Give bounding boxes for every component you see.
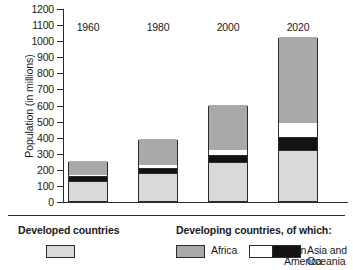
x-axis-line [63, 202, 348, 203]
x-label-2000: 2000 [198, 21, 258, 33]
x-label-1980: 1980 [128, 21, 188, 33]
y-tick-400 [57, 138, 63, 139]
y-tick-label-200: 200 [14, 165, 54, 175]
bar-segment-1980-africa [139, 139, 177, 165]
bar-segment-1980-developed-countries [139, 174, 177, 201]
bar-segment-2020-asia-and-oceania [279, 136, 317, 151]
y-tick-600 [57, 106, 63, 107]
y-tick-0 [57, 202, 63, 203]
y-tick-label-800: 800 [14, 68, 54, 78]
y-tick-label-500: 500 [14, 117, 54, 127]
bar-segment-2000-developed-countries [209, 163, 247, 201]
chart-legend: Developed countries Developing countries… [0, 215, 353, 270]
y-tick-label-1000: 1000 [14, 36, 54, 46]
x-label-1960: 1960 [58, 21, 118, 33]
bar-2020[interactable] [278, 38, 318, 202]
y-axis-line [63, 9, 64, 203]
legend-heading-developing: Developing countries, of which: [176, 224, 332, 236]
bar-1980[interactable] [138, 140, 178, 202]
y-tick-100 [57, 186, 63, 187]
y-tick-label-400: 400 [14, 133, 54, 143]
bar-segment-2020-africa [279, 37, 317, 123]
bar-segment-2000-africa [209, 105, 247, 150]
y-tick-label-1200: 1200 [14, 4, 54, 14]
legend-swatch-developed[interactable] [46, 245, 75, 258]
bar-segment-1960-africa [69, 161, 107, 175]
population-stacked-bar-chart: Population (in millions) 010020030040050… [0, 0, 353, 270]
bar-1960[interactable] [68, 162, 108, 202]
bar-segment-1960-developed-countries [69, 182, 107, 201]
y-tick-label-300: 300 [14, 149, 54, 159]
y-tick-label-0: 0 [14, 197, 54, 207]
y-tick-label-1100: 1100 [14, 20, 54, 30]
y-tick-300 [57, 154, 63, 155]
y-tick-label-700: 700 [14, 84, 54, 94]
y-tick-label-100: 100 [14, 181, 54, 191]
y-tick-200 [57, 170, 63, 171]
x-label-2020: 2020 [268, 21, 328, 33]
legend-label-africa: Africa [211, 245, 237, 257]
legend-swatch-africa[interactable] [176, 245, 205, 258]
legend-heading-developed: Developed countries [18, 224, 119, 236]
y-tick-800 [57, 73, 63, 74]
legend-label-asia-oceania-line2: Oceania [307, 256, 345, 268]
y-tick-label-900: 900 [14, 52, 54, 62]
plot-area: Population (in millions) 010020030040050… [0, 0, 353, 215]
bar-segment-2020-developed-countries [279, 151, 317, 201]
legend-divider [8, 215, 345, 216]
y-tick-500 [57, 122, 63, 123]
legend-swatch-asia-oceania[interactable] [272, 245, 301, 258]
y-tick-700 [57, 89, 63, 90]
bar-segment-2020-latin-america [279, 121, 317, 139]
bar-2000[interactable] [208, 106, 248, 202]
y-tick-900 [57, 57, 63, 58]
y-tick-label-600: 600 [14, 101, 54, 111]
y-tick-1000 [57, 41, 63, 42]
y-tick-1200 [57, 9, 63, 10]
